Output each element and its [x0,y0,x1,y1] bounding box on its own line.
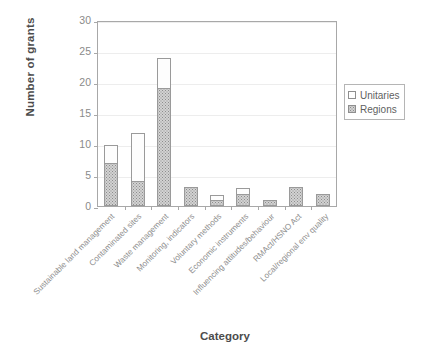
x-tick-mark [231,206,232,210]
bar-slot [151,22,177,206]
x-tick-mark [258,206,259,210]
bar-slot [283,22,309,206]
stacked-bar[interactable] [289,187,303,206]
bar-slot [204,22,230,206]
y-axis-tick-label: 10 [65,138,91,150]
bar-segment-regions[interactable] [316,194,330,206]
bar-segment-regions[interactable] [104,163,118,206]
bar-segment-regions[interactable] [263,200,277,206]
x-tick-mark [151,206,152,210]
bar-segment-regions[interactable] [210,200,224,206]
stacked-bar[interactable] [263,200,277,206]
x-axis-tick-label: Sustainable land management [0,212,117,357]
x-axis-title: Category [145,330,305,342]
legend-item[interactable]: Regions [348,102,399,116]
x-tick-mark [125,206,126,210]
bar-slot [98,22,124,206]
bar-segment-unitaries[interactable] [157,58,171,89]
bar-segment-regions[interactable] [157,88,171,206]
bar-slot [310,22,336,206]
plot-area [97,21,337,207]
y-axis-tick-label: 0 [65,200,91,212]
y-axis-tick-label: 30 [65,14,91,26]
bar-segment-unitaries[interactable] [104,145,118,164]
y-axis-tick-label: 20 [65,76,91,88]
bar-segment-regions[interactable] [289,187,303,206]
chart-figure: Number of grants 302520151050 Sustainabl… [0,0,424,357]
bar-slot [230,22,256,206]
stacked-bar[interactable] [157,58,171,206]
y-axis-title: Number of grants [24,0,44,147]
regions-swatch-icon [348,105,356,113]
x-tick-mark [311,206,312,210]
bar-segment-unitaries[interactable] [131,133,145,183]
bar-segment-regions[interactable] [236,194,250,206]
y-axis-tick-label: 5 [65,169,91,181]
x-tick-mark [178,206,179,210]
x-tick-mark [205,206,206,210]
stacked-bar[interactable] [184,187,198,206]
bar-slot [177,22,203,206]
legend: UnitariesRegions [344,84,405,120]
x-tick-mark [285,206,286,210]
y-tick-mark [94,208,98,209]
stacked-bar[interactable] [104,145,118,206]
stacked-bar[interactable] [131,133,145,206]
bar-series-group [98,22,336,206]
bar-slot [257,22,283,206]
x-axis-tick-label: Contaminated sites [0,212,143,357]
bar-slot [124,22,150,206]
y-axis-tick-label: 15 [65,107,91,119]
legend-item[interactable]: Unitaries [348,88,399,102]
stacked-bar[interactable] [236,188,250,206]
legend-item-label: Unitaries [360,90,399,101]
legend-item-label: Regions [360,104,397,115]
y-axis-tick-label: 25 [65,45,91,57]
bar-segment-regions[interactable] [184,187,198,206]
unitaries-swatch-icon [348,91,356,99]
stacked-bar[interactable] [210,195,224,206]
bar-segment-regions[interactable] [131,181,145,206]
stacked-bar[interactable] [316,194,330,206]
